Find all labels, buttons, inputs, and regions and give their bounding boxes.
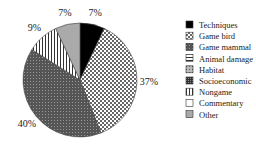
slice-label: 9% xyxy=(28,22,41,33)
slice-label: 7% xyxy=(88,7,101,18)
pie-chart: 7%37%40%9%7% TechniquesGame birdGame mam… xyxy=(0,0,256,148)
legend-label: Habitat xyxy=(199,65,225,75)
slice-label: 37% xyxy=(140,76,158,87)
legend-label: Techniques xyxy=(199,20,238,30)
legend-swatch xyxy=(186,111,193,118)
legend-label: Commentary xyxy=(199,98,244,108)
legend-swatch xyxy=(186,99,193,106)
legend-swatch xyxy=(186,77,193,84)
slice-label: 40% xyxy=(18,118,36,129)
legend-swatch xyxy=(186,88,193,95)
legend-swatch xyxy=(186,43,193,50)
legend-swatch xyxy=(186,55,193,62)
legend-label: Other xyxy=(199,110,219,120)
legend-label: Nongame xyxy=(199,87,232,97)
legend-label: Animal damage xyxy=(199,54,253,64)
legend-label: Game bird xyxy=(199,31,236,41)
legend-swatch xyxy=(186,66,193,73)
legend-label: Socioeconomic xyxy=(199,76,252,86)
legend-label: Game mammal xyxy=(199,42,252,52)
chart-svg: 7%37%40%9%7% TechniquesGame birdGame mam… xyxy=(0,0,256,148)
legend-swatch xyxy=(186,21,193,28)
legend-swatch xyxy=(186,32,193,39)
slice-label: 7% xyxy=(58,7,71,18)
